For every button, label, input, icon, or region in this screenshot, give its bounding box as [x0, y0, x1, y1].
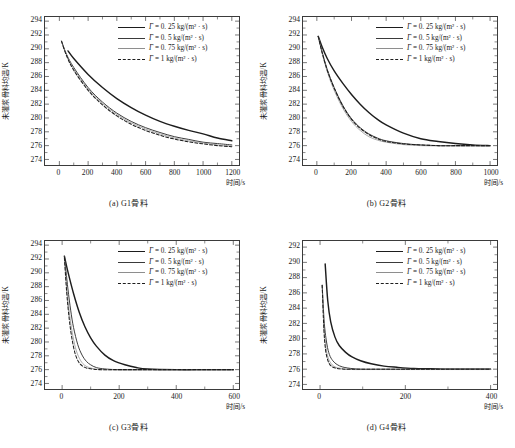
x-axis-label: 时间/s [484, 402, 503, 411]
y-tick-label: 294 [276, 16, 300, 24]
legend-item: Γ = 0. 25 kg/(m² · s) [118, 22, 207, 33]
gamma-symbol: Γ [149, 23, 155, 31]
x-tick-label: 400 [472, 392, 512, 401]
y-tick-label: 274 [276, 381, 300, 389]
legend-label: Γ = 0. 5 kg/(m² · s) [149, 33, 204, 44]
figure-four-panel-temperature-decay: 未灌浆骨料均温/K 274276278280282284286288290292… [0, 0, 515, 448]
panel-a: 未灌浆骨料均温/K 274276278280282284286288290292… [0, 0, 257, 224]
legend-label: Γ = 0. 5 kg/(m² · s) [149, 257, 204, 268]
panel-caption: (c) G3骨料 [0, 422, 257, 433]
legend-item: Γ = 1 kg/(m² · s) [118, 278, 207, 289]
legend-line-swatch [118, 268, 145, 277]
legend-item: Γ = 0. 5 kg/(m² · s) [118, 33, 207, 44]
y-axis-label: 未灌浆骨料均温/K [0, 240, 12, 390]
x-axis-label: 时间/s [484, 178, 503, 187]
gamma-symbol: Γ [407, 268, 413, 276]
series-line [68, 51, 232, 141]
x-tick-label: 600 [401, 168, 441, 177]
legend-label: Γ = 0. 25 kg/(m² · s) [149, 22, 207, 33]
y-tick-label: 284 [276, 86, 300, 94]
legend-item: Γ = 0. 75 kg/(m² · s) [376, 43, 465, 54]
gamma-symbol: Γ [407, 247, 413, 255]
panel-d: 未灌浆骨料均温/K 274276278280282284286288290292… [258, 224, 515, 448]
y-tick-label: 278 [18, 352, 42, 360]
x-tick-label: 0 [299, 392, 339, 401]
legend-label: Γ = 0. 75 kg/(m² · s) [149, 43, 207, 54]
legend-label: Γ = 1 kg/(m² · s) [149, 54, 197, 65]
panel-caption: (a) G1骨料 [0, 198, 257, 209]
legend-item: Γ = 0. 5 kg/(m² · s) [118, 257, 207, 268]
y-tick-label: 288 [18, 58, 42, 66]
y-tick-labels: 274276278280282284286288290292294 [12, 0, 42, 182]
y-tick-label: 284 [18, 310, 42, 318]
legend-line-swatch [376, 55, 403, 64]
y-tick-label: 286 [276, 72, 300, 80]
y-tick-label: 274 [18, 156, 42, 164]
y-axis-label: 未灌浆骨料均温/K [257, 240, 270, 390]
legend-label: Γ = 1 kg/(m² · s) [407, 278, 455, 289]
y-tick-label: 280 [18, 338, 42, 346]
y-tick-label: 288 [276, 58, 300, 66]
legend-label: Γ = 0. 25 kg/(m² · s) [407, 246, 465, 257]
panel-b: 未灌浆骨料均温/K 274276278280282284286288290292… [258, 0, 515, 224]
y-tick-label: 274 [18, 380, 42, 388]
y-tick-label: 294 [18, 16, 42, 24]
legend-line-swatch [376, 279, 403, 288]
gamma-symbol: Γ [149, 258, 155, 266]
legend-line-swatch [376, 257, 403, 266]
legend-label: Γ = 0. 75 kg/(m² · s) [407, 267, 465, 278]
legend: Γ = 0. 25 kg/(m² · s)Γ = 0. 5 kg/(m² · s… [376, 246, 465, 288]
y-tick-label: 286 [18, 72, 42, 80]
legend: Γ = 0. 25 kg/(m² · s)Γ = 0. 5 kg/(m² · s… [376, 22, 465, 64]
legend-label: Γ = 0. 25 kg/(m² · s) [149, 246, 207, 257]
y-tick-label: 292 [276, 242, 300, 250]
gamma-symbol: Γ [149, 44, 155, 52]
panel-caption: (b) G2骨料 [258, 198, 515, 209]
gamma-symbol: Γ [407, 34, 413, 42]
legend-line-swatch [118, 33, 145, 42]
gamma-symbol: Γ [407, 44, 413, 52]
legend-item: Γ = 0. 5 kg/(m² · s) [376, 33, 465, 44]
legend-line-swatch [118, 247, 145, 256]
y-tick-label: 280 [276, 335, 300, 343]
gamma-symbol: Γ [407, 279, 413, 287]
x-tick-label: 600 [214, 392, 254, 401]
legend-line-swatch [376, 44, 403, 53]
legend-line-swatch [376, 23, 403, 32]
x-tick-label: 200 [331, 168, 371, 177]
y-tick-label: 280 [18, 114, 42, 122]
panel-caption: (d) G4骨料 [258, 422, 515, 433]
series-line [322, 285, 490, 369]
x-tick-label: 200 [385, 392, 425, 401]
x-tick-label: 400 [366, 168, 406, 177]
legend-item: Γ = 1 kg/(m² · s) [376, 278, 465, 289]
x-tick-label: 0 [296, 168, 336, 177]
y-tick-label: 276 [18, 142, 42, 150]
legend-item: Γ = 0. 5 kg/(m² · s) [376, 257, 465, 268]
legend-item: Γ = 0. 75 kg/(m² · s) [376, 267, 465, 278]
y-tick-label: 292 [18, 30, 42, 38]
y-tick-label: 290 [18, 44, 42, 52]
legend-label: Γ = 0. 75 kg/(m² · s) [149, 267, 207, 278]
x-tick-label: 800 [436, 168, 476, 177]
x-axis-label: 时间/s [226, 402, 245, 411]
legend-label: Γ = 0. 75 kg/(m² · s) [407, 43, 465, 54]
y-tick-label: 292 [18, 254, 42, 262]
x-tick-labels: 02004006008001000 [258, 168, 515, 182]
gamma-symbol: Γ [407, 258, 413, 266]
y-tick-label: 282 [18, 100, 42, 108]
y-tick-label: 288 [18, 282, 42, 290]
legend-item: Γ = 1 kg/(m² · s) [376, 54, 465, 65]
legend-item: Γ = 0. 75 kg/(m² · s) [118, 267, 207, 278]
y-tick-label: 284 [276, 304, 300, 312]
y-tick-label: 290 [276, 44, 300, 52]
series-line [322, 285, 490, 369]
gamma-symbol: Γ [149, 247, 155, 255]
y-tick-label: 274 [276, 156, 300, 164]
y-tick-label: 282 [18, 324, 42, 332]
y-axis-label: 未灌浆骨料均温/K [0, 16, 12, 166]
legend-line-swatch [118, 44, 145, 53]
y-tick-label: 294 [18, 240, 42, 248]
legend-label: Γ = 1 kg/(m² · s) [149, 278, 197, 289]
legend: Γ = 0. 25 kg/(m² · s)Γ = 0. 5 kg/(m² · s… [118, 22, 207, 64]
